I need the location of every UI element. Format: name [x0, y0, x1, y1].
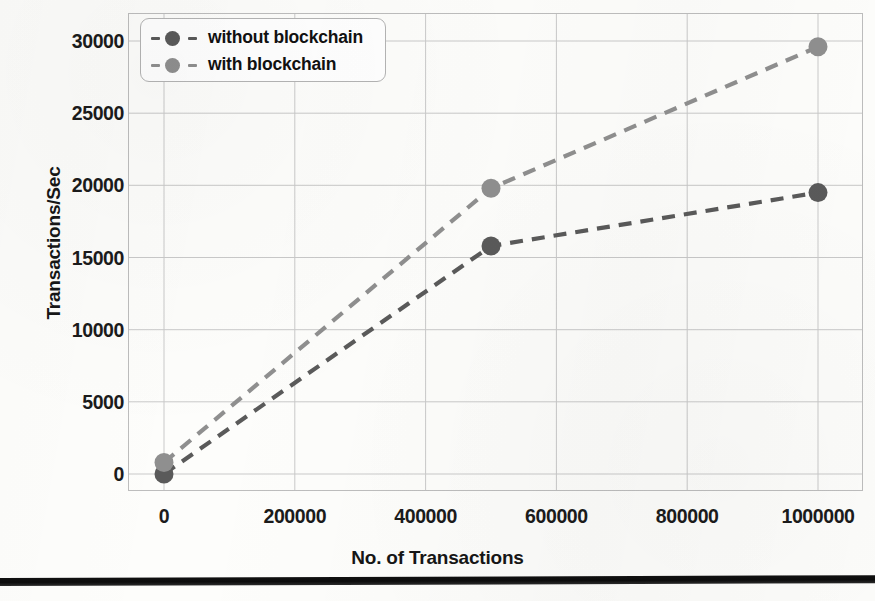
legend-marker-icon-with-blockchain: [151, 55, 197, 75]
chart-legend: without blockchain with blockchain: [140, 18, 386, 82]
y-axis-title-wrap: Transactions/Sec: [30, 0, 31, 1]
legend-item-without-blockchain: without blockchain: [151, 24, 385, 51]
legend-dot: [165, 58, 180, 73]
chart-figure: 050001000015000200002500030000 020000040…: [0, 0, 875, 601]
legend-label-without-blockchain: without blockchain: [208, 27, 363, 48]
legend-marker-icon-without-blockchain: [151, 28, 197, 48]
x-tick-label: 200000: [263, 505, 326, 528]
y-axis-title: Transactions/Sec: [43, 123, 65, 363]
x-tick-label: 0: [159, 505, 169, 528]
data-point-marker: [809, 37, 828, 56]
x-tick-label: 1000000: [781, 505, 854, 528]
legend-dot: [165, 31, 180, 46]
legend-dash-right: [188, 64, 197, 67]
data-point-marker: [482, 179, 501, 198]
x-tick-label: 800000: [656, 505, 719, 528]
legend-dash-right: [188, 37, 197, 40]
x-tick-label: 400000: [394, 505, 457, 528]
y-tick-label: 0: [28, 463, 124, 486]
series-lines: [155, 37, 828, 483]
x-tick-label: 600000: [525, 505, 588, 528]
y-tick-label: 25000: [28, 102, 124, 125]
legend-label-with-blockchain: with blockchain: [208, 54, 336, 75]
x-axis-title: No. of Transactions: [0, 547, 875, 569]
legend-item-with-blockchain: with blockchain: [151, 51, 385, 78]
data-point-marker: [809, 183, 828, 202]
series-line-0: [164, 193, 818, 474]
legend-dash-left: [151, 64, 160, 67]
y-tick-label: 30000: [28, 30, 124, 53]
legend-dash-left: [151, 37, 160, 40]
data-point-marker: [482, 237, 501, 256]
data-point-marker: [155, 453, 174, 472]
y-tick-label: 5000: [28, 390, 124, 413]
x-axis-ticks: 02000004000006000008000001000000: [0, 505, 875, 535]
